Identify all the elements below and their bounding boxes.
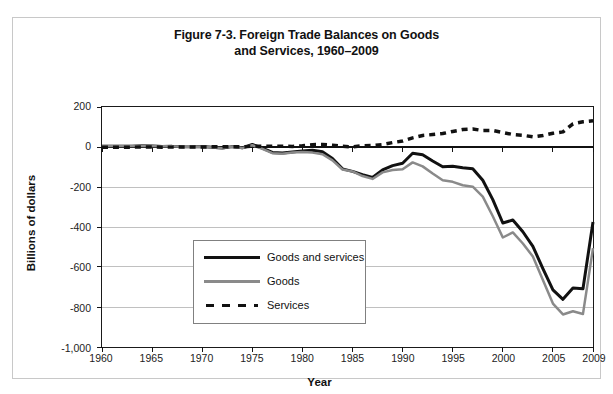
series-line-services <box>102 121 593 147</box>
legend-item-label: Goods and services <box>267 251 364 263</box>
y-tick-label: -400 <box>70 221 91 233</box>
legend-swatch-icon <box>204 252 260 263</box>
legend-item[interactable]: Goods <box>204 272 299 290</box>
x-tick-label: 1970 <box>190 352 213 364</box>
chart-legend: Goods and servicesGoodsServices <box>193 240 366 324</box>
y-tick-label: 200 <box>73 100 91 112</box>
x-tick-label: 1995 <box>441 352 464 364</box>
x-tick-label: 2005 <box>542 352 565 364</box>
y-tick-label: -200 <box>70 181 91 193</box>
y-axis-tick-labels: 2000-200-400-600-800-1,000 <box>13 18 99 394</box>
x-tick-label: 1975 <box>240 352 263 364</box>
x-tick-label: 1985 <box>341 352 364 364</box>
x-tick-label: 1980 <box>291 352 314 364</box>
legend-item[interactable]: Goods and services <box>204 248 364 266</box>
x-tick-label: 2000 <box>492 352 515 364</box>
x-tick-label: 1960 <box>89 352 112 364</box>
y-tick-label: 0 <box>85 140 91 152</box>
chart-title-line-2: and Services, 1960–2009 <box>13 43 600 59</box>
chart-title-line-1: Figure 7-3. Foreign Trade Balances on Go… <box>13 27 600 43</box>
chart-title: Figure 7-3. Foreign Trade Balances on Go… <box>13 27 600 59</box>
x-tick-label: 1965 <box>140 352 163 364</box>
x-tick-label: 2009 <box>582 352 605 364</box>
legend-swatch-icon <box>204 276 260 287</box>
legend-item[interactable]: Services <box>204 296 309 314</box>
figure-frame: Figure 7-3. Foreign Trade Balances on Go… <box>12 17 601 379</box>
legend-item-label: Goods <box>267 275 299 287</box>
legend-swatch-icon <box>204 300 260 311</box>
legend-item-label: Services <box>267 299 309 311</box>
x-axis-title: Year <box>13 376 613 388</box>
y-tick-label: -800 <box>70 302 91 314</box>
x-tick-label: 1990 <box>391 352 414 364</box>
y-tick-label: -600 <box>70 261 91 273</box>
x-axis-tick-labels: 1960196519701975198019851990199520002005… <box>13 352 613 372</box>
